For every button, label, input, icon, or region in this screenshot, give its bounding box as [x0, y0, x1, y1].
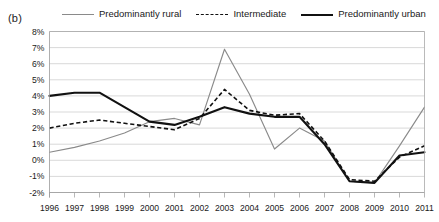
svg-text:-1%: -1%	[29, 171, 45, 181]
svg-text:2008: 2008	[340, 203, 359, 213]
gridlines	[50, 32, 425, 193]
svg-text:0%: 0%	[32, 155, 45, 165]
svg-text:4%: 4%	[32, 91, 45, 101]
svg-text:2011: 2011	[415, 203, 434, 213]
series-predominantly-rural	[50, 49, 425, 183]
series-intermediate	[50, 89, 425, 181]
svg-text:2000: 2000	[140, 203, 159, 213]
svg-text:2%: 2%	[32, 123, 45, 133]
y-axis-tick-labels: -2%-1%0%1%2%3%4%5%6%7%8%	[29, 27, 45, 198]
series-predominantly-urban	[50, 93, 425, 183]
svg-text:7%: 7%	[32, 43, 45, 53]
data-series-lines	[50, 49, 425, 183]
svg-text:2003: 2003	[215, 203, 234, 213]
svg-text:2006: 2006	[290, 203, 309, 213]
x-axis-tick-labels: 1996199719981999200020012002200320042005…	[40, 203, 434, 213]
svg-text:3%: 3%	[32, 107, 45, 117]
svg-text:2001: 2001	[165, 203, 184, 213]
svg-text:2010: 2010	[390, 203, 409, 213]
plot-area: -2%-1%0%1%2%3%4%5%6%7%8% 199619971998199…	[0, 0, 439, 222]
svg-text:5%: 5%	[32, 75, 45, 85]
plot-frame	[50, 32, 425, 198]
svg-text:1996: 1996	[40, 203, 59, 213]
svg-text:2002: 2002	[190, 203, 209, 213]
svg-text:1%: 1%	[32, 139, 45, 149]
svg-text:1997: 1997	[65, 203, 84, 213]
svg-text:2007: 2007	[315, 203, 334, 213]
svg-text:1998: 1998	[90, 203, 109, 213]
line-chart-svg: -2%-1%0%1%2%3%4%5%6%7%8% 199619971998199…	[0, 0, 439, 222]
chart-panel: (b) Predominantly rural Intermediate Pre…	[0, 0, 439, 222]
svg-text:6%: 6%	[32, 59, 45, 69]
svg-text:2004: 2004	[240, 203, 259, 213]
svg-text:-2%: -2%	[29, 188, 45, 198]
svg-text:2009: 2009	[365, 203, 384, 213]
svg-text:1999: 1999	[115, 203, 134, 213]
x-axis-tick-marks	[50, 193, 425, 198]
svg-text:2005: 2005	[265, 203, 284, 213]
svg-text:8%: 8%	[32, 27, 45, 37]
